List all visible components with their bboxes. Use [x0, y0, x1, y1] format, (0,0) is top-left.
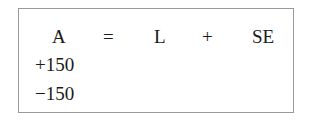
assets-decrease-value: −150 — [35, 84, 74, 103]
equals-sign: = — [103, 27, 114, 46]
assets-increase-value: +150 — [35, 55, 74, 74]
plus-sign: + — [202, 27, 213, 46]
assets-header: A — [52, 27, 66, 46]
liabilities-header: L — [154, 27, 166, 46]
equity-header: SE — [252, 27, 274, 46]
